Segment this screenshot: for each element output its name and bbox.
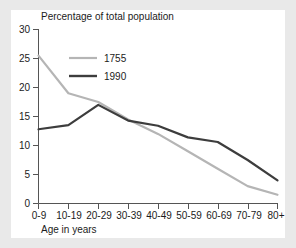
series-line-1990: [39, 105, 278, 180]
x-tick-label-4: 40-49: [146, 210, 172, 221]
y-tick-label-20: 20: [19, 82, 31, 93]
legend-label-1990: 1990: [104, 71, 127, 82]
y-tick-label-15: 15: [19, 111, 31, 122]
x-tick-label-5: 50-59: [176, 210, 202, 221]
chart-screenshot: 30 25 20 15 10 5 0 0-9 10-19 20-29: [0, 0, 296, 248]
x-tick-label-0: 0-9: [32, 210, 47, 221]
y-tick-label-10: 10: [19, 140, 31, 151]
y-tick-label-25: 25: [19, 53, 31, 64]
chart-title: Percentage of total population: [41, 11, 174, 22]
x-axis-label: Age in years: [41, 224, 97, 235]
x-tick-label-1: 10-19: [56, 210, 82, 221]
y-tick-label-30: 30: [19, 24, 31, 35]
legend-label-1755: 1755: [104, 53, 127, 64]
x-tick-label-7: 70-79: [236, 210, 262, 221]
chart-legend: 1755 1990: [69, 53, 127, 82]
chart-panel: 30 25 20 15 10 5 0 0-9 10-19 20-29: [11, 10, 285, 238]
y-tick-label-5: 5: [24, 169, 30, 180]
x-tick-label-6: 60-69: [206, 210, 232, 221]
x-tick-label-3: 30-39: [116, 210, 142, 221]
line-chart: 30 25 20 15 10 5 0 0-9 10-19 20-29: [11, 10, 285, 238]
x-tick-label-8: 80+: [268, 210, 285, 221]
y-tick-label-0: 0: [24, 198, 30, 209]
x-axis-ticks: [39, 204, 278, 210]
x-tick-label-2: 20-29: [86, 210, 112, 221]
